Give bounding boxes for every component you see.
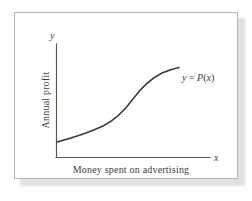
- graph-plot: y x y = P(x) Money spent on advertising …: [0, 0, 252, 201]
- x-axis-variable-label: x: [213, 152, 219, 163]
- y-axis-variable-label: y: [49, 30, 55, 41]
- figure-container: y x y = P(x) Money spent on advertising …: [0, 0, 252, 201]
- curve-label-close-paren: ): [211, 72, 214, 84]
- profit-curve: [57, 68, 179, 143]
- curve-equation-label: y = P(x): [181, 72, 214, 84]
- x-axis-caption: Money spent on advertising: [73, 164, 190, 175]
- curve-label-equals: =: [186, 72, 197, 83]
- curve-label-p: P: [196, 72, 203, 83]
- y-axis-caption: Annual profit: [40, 72, 51, 129]
